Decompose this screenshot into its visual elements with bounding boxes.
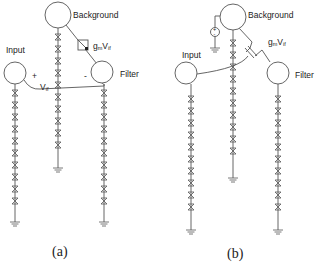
ground-icon (210, 48, 220, 52)
background-label: Background (73, 10, 119, 20)
background-node (220, 4, 246, 30)
vif-label: Vif (40, 82, 49, 92)
input-chain (186, 84, 196, 234)
input-chain (10, 84, 20, 226)
diagram-canvas: Background Input Filter gmVif Vif + - (a… (0, 0, 318, 270)
input-node (4, 62, 26, 84)
ground-icon (53, 168, 63, 172)
filter-node (267, 62, 289, 84)
filter-node (91, 61, 113, 83)
input-label: Input (6, 45, 26, 55)
ground-icon (228, 178, 238, 182)
background-chain (53, 28, 63, 172)
background-chain (228, 30, 238, 182)
input-node (175, 62, 197, 84)
input-label: Input (182, 50, 202, 60)
filter-label: Filter (295, 70, 314, 80)
source-arrow-icon (85, 47, 88, 50)
caption-a: (a) (52, 244, 68, 260)
filter-chain (99, 84, 109, 226)
ground-icon (273, 230, 283, 234)
input-coupling-curve (197, 56, 248, 74)
panel-b: + - (175, 4, 314, 262)
svg-text:-: - (214, 31, 216, 37)
filter-chain (273, 84, 283, 234)
minus-label: - (84, 71, 87, 81)
caption-b: (b) (227, 246, 244, 262)
ground-icon (99, 222, 109, 226)
ground-icon (186, 230, 196, 234)
vif-curve (24, 80, 104, 89)
gm-label: gmVif (268, 37, 286, 47)
background-node (45, 2, 71, 28)
ground-icon (10, 222, 20, 226)
background-label: Background (248, 10, 294, 20)
plus-label: + (32, 71, 37, 81)
panel-a: Background Input Filter gmVif Vif + - (a… (4, 2, 139, 260)
filter-label: Filter (120, 69, 139, 79)
gm-label: gmVif (93, 41, 111, 51)
